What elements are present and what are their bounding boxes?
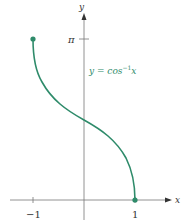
y-axis-label: y bbox=[78, 2, 85, 12]
y-axis-arrow-icon bbox=[82, 13, 87, 20]
x-axis-label: x bbox=[175, 195, 180, 205]
tick-label-neg-one: −1 bbox=[26, 209, 41, 220]
curve-label: y = cos−1x bbox=[88, 64, 136, 76]
arccos-graph: x y −1 1 π y = cos−1x bbox=[0, 0, 193, 223]
tick-label-one: 1 bbox=[132, 209, 138, 220]
tick-label-pi: π bbox=[67, 34, 75, 45]
endpoint-one-zero bbox=[132, 197, 137, 202]
endpoint-neg-one-pi bbox=[30, 36, 35, 41]
x-axis-arrow-icon bbox=[165, 198, 172, 203]
